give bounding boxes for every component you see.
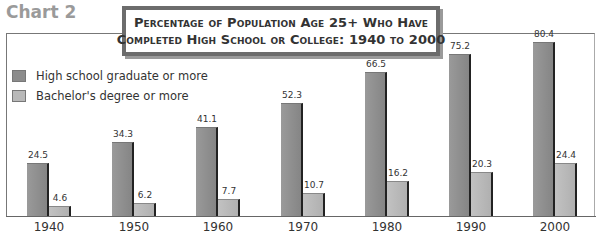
chart-title-box: Percentage of Population Age 25+ Who Hav… xyxy=(122,6,440,56)
value-label-hs-2000: 80.4 xyxy=(524,29,564,39)
value-label-ba-1960: 7.7 xyxy=(209,186,249,196)
chart-title-line-1: Percentage of Population Age 25+ Who Hav… xyxy=(134,14,428,31)
bar-ba-1960 xyxy=(218,199,240,216)
bar-ba-2000 xyxy=(555,163,577,216)
bar-ba-1970 xyxy=(303,193,325,216)
bar-ba-1980 xyxy=(387,181,409,216)
chart-title-line-2: Completed High School or College: 1940 t… xyxy=(117,31,446,48)
bar-hs-1970 xyxy=(281,103,303,216)
legend-label-bachelors: Bachelor's degree or more xyxy=(36,89,189,103)
x-axis-baseline xyxy=(6,216,596,217)
value-label-hs-1980: 66.5 xyxy=(356,59,396,69)
bar-hs-1990 xyxy=(449,54,471,216)
value-label-ba-2000: 24.4 xyxy=(546,150,586,160)
legend-item-bachelors: Bachelor's degree or more xyxy=(12,86,208,106)
chart-label: Chart 2 xyxy=(6,2,76,22)
x-tick-label-1980: 1980 xyxy=(362,220,412,234)
bar-hs-1980 xyxy=(365,72,387,216)
bar-hs-1960 xyxy=(196,127,218,216)
legend-label-high-school: High school graduate or more xyxy=(36,69,208,83)
x-tick-label-1940: 1940 xyxy=(24,220,74,234)
value-label-ba-1990: 20.3 xyxy=(462,159,502,169)
value-label-ba-1940: 4.6 xyxy=(40,193,80,203)
value-label-ba-1950: 6.2 xyxy=(125,190,165,200)
legend-swatch-bachelors xyxy=(12,90,26,102)
value-label-hs-1990: 75.2 xyxy=(440,41,480,51)
legend-swatch-high-school xyxy=(12,70,26,82)
bar-hs-2000 xyxy=(533,42,555,216)
value-label-hs-1940: 24.5 xyxy=(18,150,58,160)
value-label-hs-1970: 52.3 xyxy=(272,90,312,100)
x-tick-label-1970: 1970 xyxy=(278,220,328,234)
x-tick-label-1950: 1950 xyxy=(109,220,159,234)
bar-ba-1950 xyxy=(134,203,156,216)
x-tick-label-2000: 2000 xyxy=(530,220,580,234)
x-tick-label-1960: 1960 xyxy=(193,220,243,234)
value-label-ba-1980: 16.2 xyxy=(378,168,418,178)
bar-hs-1950 xyxy=(112,142,134,216)
legend: High school graduate or more Bachelor's … xyxy=(12,66,208,106)
bar-hs-1940 xyxy=(27,163,49,216)
x-tick-label-1990: 1990 xyxy=(446,220,496,234)
value-label-ba-1970: 10.7 xyxy=(294,180,334,190)
value-label-hs-1960: 41.1 xyxy=(187,114,227,124)
legend-item-high-school: High school graduate or more xyxy=(12,66,208,86)
bar-ba-1990 xyxy=(471,172,493,216)
value-label-hs-1950: 34.3 xyxy=(103,129,143,139)
bar-ba-1940 xyxy=(49,206,71,216)
